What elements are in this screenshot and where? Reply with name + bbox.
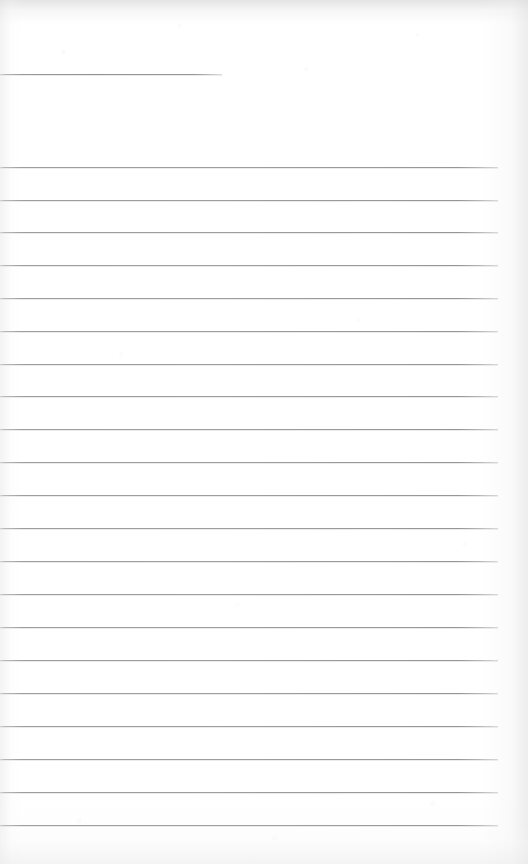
ruled-line	[0, 759, 498, 760]
ruled-line	[0, 660, 498, 661]
ruled-line	[0, 232, 498, 233]
ruled-line	[0, 528, 498, 529]
ruled-line	[0, 429, 498, 430]
ruled-line	[0, 693, 498, 694]
ruled-line	[0, 627, 498, 628]
ruled-line	[0, 462, 498, 463]
ruled-line	[0, 726, 498, 727]
ruled-line	[0, 792, 498, 793]
ruled-line	[0, 200, 498, 201]
scanned-page	[0, 0, 528, 864]
ruled-line	[0, 495, 498, 496]
ruled-line	[0, 167, 498, 168]
title-rule	[0, 74, 222, 75]
ruled-line	[0, 396, 498, 397]
ruled-line	[0, 331, 498, 332]
ruled-line	[0, 825, 498, 826]
ruled-line	[0, 594, 498, 595]
ruled-line	[0, 265, 498, 266]
ruled-line	[0, 561, 498, 562]
ruled-line	[0, 298, 498, 299]
ruled-lines-layer	[0, 0, 528, 864]
ruled-line	[0, 364, 498, 365]
